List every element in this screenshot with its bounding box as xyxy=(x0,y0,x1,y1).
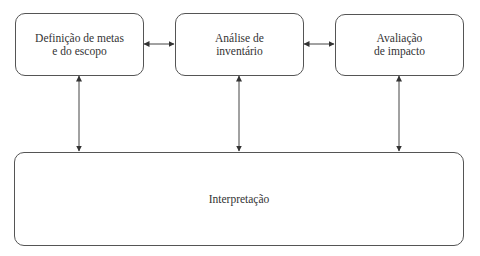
node-inventory-analysis-label: Análise de inventário xyxy=(215,32,264,58)
node-goal-scope: Definição de metas e do escopo xyxy=(15,13,144,76)
node-interpretation-label: Interpretação xyxy=(209,193,270,206)
node-impact-assessment: Avaliação de impacto xyxy=(335,14,464,76)
node-inventory-analysis: Análise de inventário xyxy=(175,13,304,76)
node-interpretation: Interpretação xyxy=(14,152,464,246)
node-impact-assessment-label: Avaliação de impacto xyxy=(374,32,425,58)
node-goal-scope-label: Definição de metas e do escopo xyxy=(35,32,124,58)
